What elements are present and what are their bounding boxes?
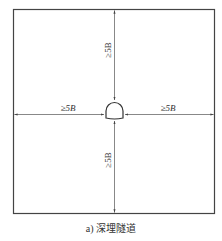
label-top: ≥5B [103, 42, 113, 57]
label-bottom: ≥5B [103, 152, 113, 167]
deep-tunnel-diagram: ≥5B ≥5B ≥5B ≥5B a) 深埋隧道 [0, 0, 222, 241]
label-left: ≥5B [61, 103, 76, 113]
tunnel-section-icon [106, 103, 123, 120]
label-right: ≥5B [161, 103, 176, 113]
diagram-canvas: ≥5B ≥5B ≥5B ≥5B [0, 0, 222, 241]
figure-caption: a) 深埋隧道 [0, 220, 222, 235]
